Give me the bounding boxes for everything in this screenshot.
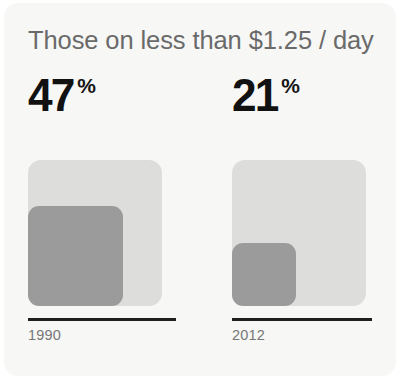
value-square: [232, 243, 296, 306]
percent-symbol: %: [77, 73, 96, 99]
category-label-2012: 2012: [232, 327, 265, 343]
axis-rule: [28, 318, 176, 321]
category-label-1990: 1990: [28, 327, 61, 343]
area-squares: [28, 160, 162, 306]
value-square: [28, 206, 123, 306]
axis-rule: [232, 318, 372, 321]
value-block: 21 %: [232, 73, 300, 117]
value-number: 47: [28, 73, 73, 117]
percent-symbol: %: [281, 73, 300, 99]
value-number: 21: [232, 73, 277, 117]
area-squares: [232, 160, 366, 306]
chart-group-2012: 21 % 2012: [232, 3, 396, 376]
value-block: 47 %: [28, 73, 96, 117]
infographic-card: Those on less than $1.25 / day 47 % 1990…: [4, 3, 396, 376]
chart-group-1990: 47 % 1990: [28, 3, 208, 376]
